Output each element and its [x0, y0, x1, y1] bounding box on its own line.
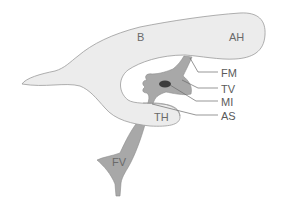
label-tv: TV: [221, 83, 236, 95]
massa-intermedia-shape: [159, 81, 171, 88]
label-th: TH: [154, 111, 169, 123]
ventricular-system-diagram: B AH FM TV MI AS TH FV: [0, 0, 281, 201]
label-ah: AH: [229, 31, 244, 43]
label-fv: FV: [112, 156, 127, 168]
label-b: B: [137, 31, 144, 43]
label-fm: FM: [221, 67, 237, 79]
label-mi: MI: [221, 96, 233, 108]
leader-line-fm: [190, 58, 218, 72]
label-as: AS: [221, 110, 236, 122]
